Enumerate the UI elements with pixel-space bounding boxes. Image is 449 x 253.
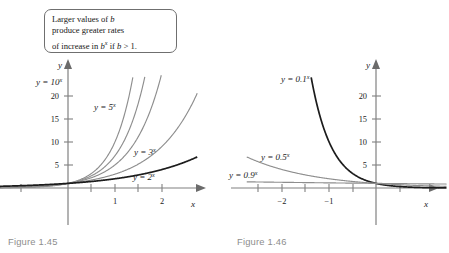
y-axis-arrow — [64, 59, 72, 69]
plot-area-1-46: −2 −1 x 5 10 15 20 y y = 0.1x — [225, 55, 449, 225]
chart-svg-1-45: 1 2 x 5 10 15 20 y y = — [0, 55, 224, 225]
plot-area-1-45: 1 2 x 5 10 15 20 y y = — [0, 55, 224, 225]
x-axis-label: x — [190, 199, 196, 209]
y-tick-label: 10 — [359, 138, 367, 147]
curve-label-05x: y = 0.5x — [260, 151, 290, 162]
x-tick-label: −2 — [278, 197, 287, 206]
callout-line-3: of increase in bx if b > 1. — [52, 37, 170, 52]
callout-line-1: Larger values of b — [52, 14, 170, 25]
y-tick-label: 15 — [51, 115, 59, 124]
curve-y09x — [247, 182, 447, 184]
y-tick-label: 20 — [51, 92, 59, 101]
curve-y01x — [311, 77, 446, 188]
figure-caption-1-45: Figure 1.45 — [8, 236, 58, 247]
x-tick-label: 2 — [160, 197, 164, 206]
curve-label-10x: y = 10x — [35, 76, 63, 87]
y-axis-arrow — [372, 59, 380, 69]
y-tick-label: 10 — [51, 138, 59, 147]
x-tick-label: −1 — [325, 197, 334, 206]
y-tick-label: 15 — [359, 115, 367, 124]
figure-caption-1-46: Figure 1.46 — [237, 236, 287, 247]
curve-label-2x: y = 2x — [132, 171, 155, 182]
curve-group-1-45 — [0, 75, 197, 188]
chart-svg-1-46: −2 −1 x 5 10 15 20 y y = 0.1x — [225, 55, 449, 225]
curve-label-3x: y = 3x — [133, 146, 156, 157]
y-tick-label: 20 — [359, 92, 367, 101]
y-axis-label: y — [57, 60, 63, 70]
curve-label-01x: y = 0.1x — [280, 73, 310, 84]
curve-group-1-46 — [247, 77, 447, 188]
x-tick-label: 1 — [113, 197, 117, 206]
curve-y5x — [0, 75, 161, 187]
curve-label-09x: y = 0.9x — [228, 169, 258, 180]
y-axis-group: 5 10 15 20 y — [359, 59, 381, 225]
y-tick-label: 5 — [55, 161, 59, 170]
figure-panel-1-46: Smaller values of b produce greater rate… — [225, 0, 449, 253]
figure-panel-1-45: Larger values of b produce greater rates… — [0, 0, 224, 253]
curve-y10x — [0, 77, 133, 188]
x-axis-label: x — [423, 199, 429, 209]
callout-line-2: produce greater rates — [52, 25, 170, 36]
y-tick-label: 5 — [363, 161, 367, 170]
x-axis-arrow — [196, 184, 206, 192]
curve-label-5x: y = 5x — [93, 101, 116, 112]
callout-box-increase: Larger values of b produce greater rates… — [44, 9, 177, 53]
y-axis-label: y — [365, 60, 371, 70]
